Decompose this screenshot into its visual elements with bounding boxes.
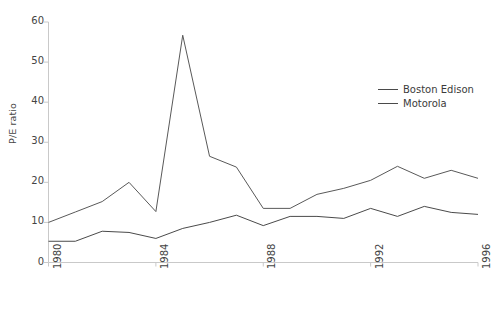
legend-line-swatch-icon: [378, 103, 398, 104]
legend-item-motorola: Motorola: [378, 96, 474, 110]
legend-label-boston-edison: Boston Edison: [403, 84, 474, 95]
pe-ratio-line-chart: P/E ratio 0102030405060 Boston Edison Mo…: [0, 0, 494, 312]
x-axis-ticks: [49, 263, 479, 267]
x-axis-tick-label: 1980: [53, 243, 63, 268]
series-line-boston-edison: [49, 35, 479, 222]
y-axis-ticks: [44, 22, 49, 263]
legend-label-motorola: Motorola: [403, 98, 447, 109]
legend-line-swatch-icon: [378, 89, 398, 90]
x-axis-tick-label: 1984: [160, 243, 170, 268]
x-axis-tick-label: 1992: [375, 243, 385, 268]
series-line-motorola: [49, 206, 479, 241]
x-axis-tick-label: 1988: [267, 243, 277, 268]
chart-legend: Boston Edison Motorola: [378, 82, 474, 110]
legend-item-boston-edison: Boston Edison: [378, 82, 474, 96]
x-axis-tick-label: 1996: [482, 243, 492, 268]
axis-lines: [49, 22, 479, 263]
plot-area: [0, 0, 494, 312]
